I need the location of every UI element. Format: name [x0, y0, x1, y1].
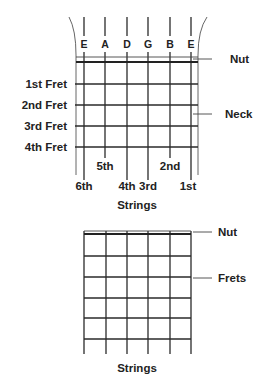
frets: [84, 256, 191, 339]
string-number-label: 6th: [75, 180, 92, 192]
fret-label: 4th Fret: [25, 141, 67, 153]
string-number-label: 3rd: [139, 180, 157, 192]
callout-label-nut: Nut: [218, 226, 237, 238]
callouts: NutNeck: [193, 53, 253, 120]
nut: [84, 231, 191, 234]
fret-label: 2nd Fret: [22, 99, 68, 111]
string-number-labels: 5th2nd6th4th3rd1st: [75, 160, 196, 192]
string-number-label: 5th: [96, 160, 113, 172]
fretboard-diagrams: EADGBE 1st Fret2nd Fret3rd Fret4th Fret …: [0, 0, 277, 388]
string-number-label: 1st: [180, 180, 197, 192]
strings-axis-label: Strings: [117, 199, 157, 211]
strings: [84, 17, 191, 180]
string-name-label: A: [101, 38, 109, 50]
callouts: NutFrets: [193, 226, 246, 284]
headstock-left-curve: [69, 17, 76, 55]
string-number-label: 4th: [118, 180, 135, 192]
callout-label-frets: Frets: [218, 272, 246, 284]
callout-label-neck: Neck: [225, 108, 253, 120]
headstock-right-curve: [198, 17, 207, 55]
string-name-label: B: [166, 38, 174, 50]
string-name-label: D: [123, 38, 131, 50]
fret-labels: 1st Fret2nd Fret3rd Fret4th Fret: [22, 78, 68, 153]
nut: [76, 57, 198, 62]
callout-label-nut: Nut: [230, 53, 249, 65]
fret-label: 3rd Fret: [24, 120, 67, 132]
fretboard-diagram-labeled: EADGBE 1st Fret2nd Fret3rd Fret4th Fret …: [22, 17, 253, 211]
frets: [75, 84, 198, 147]
neck-edges: [76, 55, 198, 175]
string-name-label: E: [187, 38, 194, 50]
string-name-label: G: [144, 38, 152, 50]
fretboard-diagram-simple: NutFrets Strings: [84, 226, 246, 374]
string-name-label: E: [80, 38, 87, 50]
string-name-labels: EADGBE: [80, 38, 194, 50]
fret-label: 1st Fret: [25, 78, 67, 90]
string-number-label: 2nd: [160, 160, 180, 172]
strings: [84, 231, 191, 354]
strings-axis-label: Strings: [117, 362, 157, 374]
